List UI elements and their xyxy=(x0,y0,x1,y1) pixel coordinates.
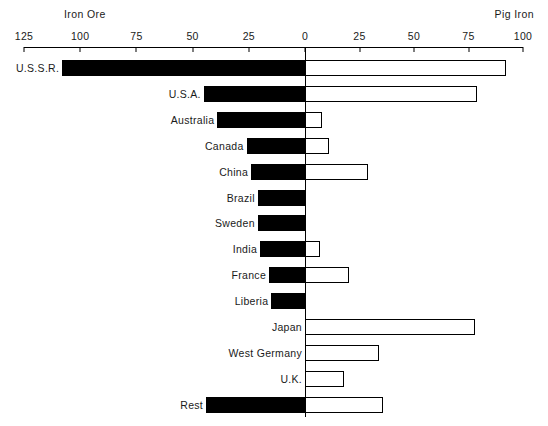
bar-pig-iron xyxy=(305,86,477,102)
chart-row: Australia xyxy=(0,112,548,128)
category-label-u-k: U.K. xyxy=(280,371,302,387)
category-label-france: France xyxy=(232,267,266,283)
bar-iron-ore xyxy=(271,293,305,309)
chart-row: U.K. xyxy=(0,371,548,387)
bar-pig-iron xyxy=(305,397,383,413)
bar-pig-iron xyxy=(305,164,368,180)
category-label-australia: Australia xyxy=(171,112,215,128)
chart-row: Canada xyxy=(0,138,548,154)
chart-row: U.S.S.R. xyxy=(0,60,548,76)
category-label-liberia: Liberia xyxy=(235,293,269,309)
iron-ore-pig-iron-chart: Iron Ore Pig Iron 1251007550250255075100… xyxy=(0,0,548,426)
bar-iron-ore xyxy=(204,86,305,102)
bar-iron-ore xyxy=(62,60,305,76)
bar-pig-iron xyxy=(305,112,322,128)
bar-pig-iron xyxy=(305,60,506,76)
category-label-west-germany: West Germany xyxy=(229,345,302,361)
plot-area: U.S.S.R.U.S.A.AustraliaCanadaChinaBrazil… xyxy=(0,0,548,426)
category-label-china: China xyxy=(219,164,248,180)
category-label-rest: Rest xyxy=(180,397,203,413)
bar-pig-iron xyxy=(305,345,379,361)
chart-row: India xyxy=(0,241,548,257)
chart-row: Brazil xyxy=(0,190,548,206)
bar-iron-ore xyxy=(269,267,305,283)
chart-row: Rest xyxy=(0,397,548,413)
bar-pig-iron xyxy=(305,241,320,257)
category-label-brazil: Brazil xyxy=(227,190,255,206)
bar-iron-ore xyxy=(258,215,305,231)
category-label-japan: Japan xyxy=(272,319,302,335)
chart-row: West Germany xyxy=(0,345,548,361)
bar-pig-iron xyxy=(305,371,344,387)
bar-iron-ore xyxy=(251,164,305,180)
zero-baseline xyxy=(305,47,306,417)
bar-pig-iron xyxy=(305,267,349,283)
chart-row: U.S.A. xyxy=(0,86,548,102)
bar-pig-iron xyxy=(305,319,475,335)
bar-pig-iron xyxy=(305,138,329,154)
category-label-canada: Canada xyxy=(205,138,244,154)
bar-iron-ore xyxy=(206,397,305,413)
chart-row: Japan xyxy=(0,319,548,335)
category-label-u-s-s-r: U.S.S.R. xyxy=(16,60,59,76)
category-label-u-s-a: U.S.A. xyxy=(169,86,201,102)
chart-row: Sweden xyxy=(0,215,548,231)
bar-iron-ore xyxy=(217,112,305,128)
category-label-sweden: Sweden xyxy=(215,215,255,231)
bar-iron-ore xyxy=(247,138,305,154)
chart-row: China xyxy=(0,164,548,180)
bar-iron-ore xyxy=(260,241,305,257)
chart-row: Liberia xyxy=(0,293,548,309)
bar-iron-ore xyxy=(258,190,305,206)
chart-row: France xyxy=(0,267,548,283)
category-label-india: India xyxy=(233,241,257,257)
